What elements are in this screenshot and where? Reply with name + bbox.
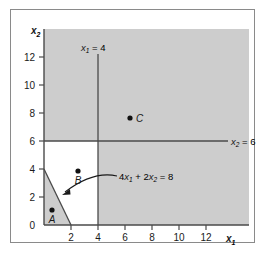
shaded-regions: [44, 29, 249, 225]
x-tick-label-4: 4: [95, 232, 101, 243]
plot-canvas: 12 10 8 6 4 2 0 2 4 6 8 10 12 x2 x1: [0, 0, 271, 262]
callout-arrow-head: [62, 189, 71, 195]
diag-label-plus: + 2: [133, 171, 149, 182]
x-tick-label-2: 2: [68, 232, 74, 243]
figure-root: 12 10 8 6 4 2 0 2 4 6 8 10 12 x2 x1: [0, 0, 271, 262]
y-tick-label-2: 2: [29, 192, 35, 203]
y-axis-ticks: [39, 57, 44, 197]
point-a-label: A: [48, 214, 56, 225]
constraint-label-x2-tail: = 6: [239, 136, 255, 147]
x-axis-title-sub: 1: [232, 239, 236, 246]
x-tick-label-12: 12: [200, 232, 212, 243]
infeasible-right-region: [98, 141, 249, 225]
infeasible-upper-region: [44, 29, 249, 141]
point-c-marker: [127, 115, 132, 120]
x-tick-label-8: 8: [149, 232, 155, 243]
constraint-label-diagonal: 4x1 + 2x2 = 8: [119, 171, 173, 183]
y-tick-labels: 12 10 8 6 4 2 0: [24, 52, 36, 231]
diag-label-rhs: = 8: [157, 171, 173, 182]
point-c-label: C: [136, 113, 144, 124]
constraint-label-x1-equals-4: x1 = 4: [80, 42, 106, 54]
point-b-marker: [75, 168, 80, 173]
y-tick-label-4: 4: [29, 164, 35, 175]
x-tick-labels: 2 4 6 8 10 12: [68, 232, 212, 243]
y-tick-label-10: 10: [24, 80, 36, 91]
point-a-marker: [49, 207, 54, 212]
y-tick-label-12: 12: [24, 52, 36, 63]
x-tick-label-10: 10: [173, 232, 185, 243]
constraint-label-x1-tail: = 4: [89, 42, 105, 53]
y-axis-title-sub: 2: [36, 31, 41, 38]
x-axis-ticks: [71, 225, 206, 230]
x-axis-title: x1: [225, 233, 236, 246]
constraint-label-x2-equals-6: x2 = 6: [230, 136, 256, 148]
point-b-label: B: [75, 175, 82, 186]
y-tick-label-6: 6: [29, 136, 35, 147]
y-axis-title: x2: [30, 25, 41, 38]
y-tick-label-8: 8: [29, 108, 35, 119]
x-tick-label-6: 6: [122, 232, 128, 243]
y-tick-label-0: 0: [29, 220, 35, 231]
